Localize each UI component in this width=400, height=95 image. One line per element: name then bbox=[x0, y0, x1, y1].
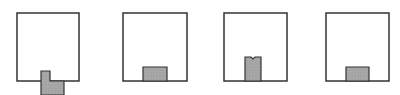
panel-4 bbox=[326, 13, 389, 81]
shaded-block bbox=[346, 67, 369, 81]
panel-1 bbox=[17, 13, 79, 95]
panel-2 bbox=[123, 13, 187, 81]
shaded-block bbox=[143, 67, 167, 81]
diagram-canvas bbox=[0, 0, 400, 95]
shaded-block bbox=[245, 57, 261, 81]
panel-3 bbox=[224, 13, 287, 81]
